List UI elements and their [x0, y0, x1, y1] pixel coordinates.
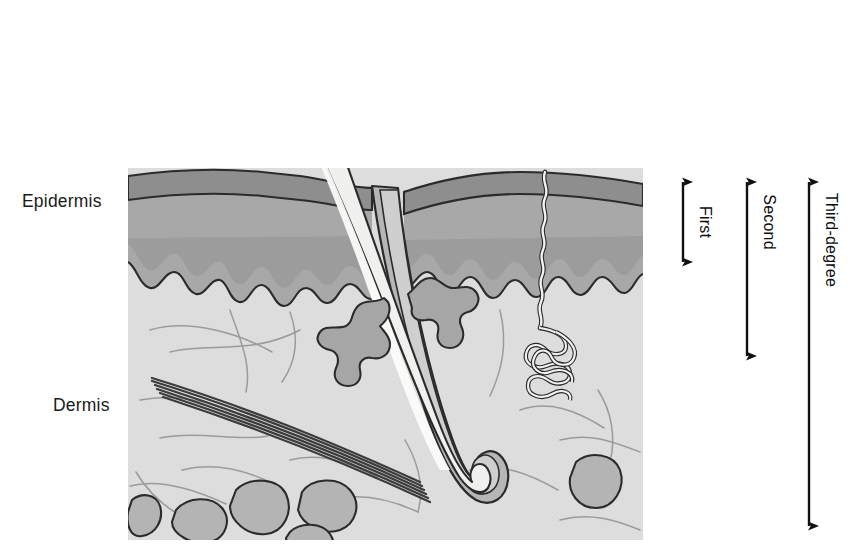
burn-depth-diagram: Epidermis Dermis First Second Third-degr… [0, 0, 852, 551]
diagram-canvas: Epidermis Dermis First Second Third-degr… [0, 0, 852, 551]
label-epidermis: Epidermis [22, 191, 102, 211]
first-degree-label: First [697, 206, 714, 238]
label-dermis: Dermis [53, 395, 110, 415]
third-degree-label: Third-degree [823, 193, 840, 287]
second-degree-label: Second [761, 194, 778, 249]
